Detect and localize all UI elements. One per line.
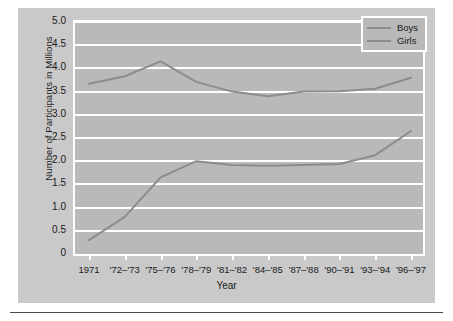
x-axis-tick-mark [268,254,270,260]
y-axis-tick-label: 4.5 [32,38,66,49]
x-axis-tick-mark [125,254,127,260]
x-axis-tick-label: '93–'94 [360,264,390,275]
x-axis-title: Year [18,280,435,291]
y-axis-tick-label: 0 [32,247,66,258]
x-axis-tick-mark [161,254,163,260]
y-axis-tick-label: 2.5 [32,131,66,142]
x-axis-tick-label: 1971 [78,264,99,275]
legend-line-swatch [367,27,391,29]
y-axis-tick-label: 2.0 [32,154,66,165]
x-axis-tick-mark [196,254,198,260]
legend-entry: Boys [367,21,418,34]
y-axis-tick-label: 0.5 [32,223,66,234]
x-axis-tick-label: '72–'73 [110,264,140,275]
y-axis-tick-label: 3.0 [32,107,66,118]
x-axis-tick-mark [89,254,91,260]
legend-label: Boys [397,23,418,33]
x-axis-tick-mark [304,254,306,260]
legend-label: Girls [397,36,417,46]
bottom-divider [10,312,443,313]
x-axis-tick-label: '96–'97 [396,264,426,275]
series-line-boys [89,61,411,96]
x-axis-tick-label: '90–'91 [324,264,354,275]
x-axis-tick-label: '81–'82 [217,264,247,275]
y-axis-tick-label: 3.5 [32,84,66,95]
y-axis-tick-label: 1.0 [32,200,66,211]
y-axis-tick-label: 5.0 [32,15,66,26]
x-axis-tick-mark [232,254,234,260]
x-axis-tick-mark [411,254,413,260]
x-axis-tick-mark [375,254,377,260]
data-lines [73,20,425,256]
x-axis-tick-labels: 1971'72–'73'75–'76'78–'79'81–'82'84–'85'… [73,256,425,278]
series-line-girls [89,131,411,240]
chart-legend: BoysGirls [361,16,427,52]
x-axis-tick-label: '75–'76 [146,264,176,275]
x-axis-tick-label: '78–'79 [181,264,211,275]
y-axis-tick-label: 4.0 [32,61,66,72]
y-axis-tick-labels: 00.51.01.52.02.53.03.54.04.55.0 [26,20,66,252]
chart-figure: Number of Participants in Millions 00.51… [18,8,435,303]
legend-entry: Girls [367,34,418,47]
x-axis-tick-label: '87–'88 [289,264,319,275]
legend-line-swatch [367,40,391,42]
x-axis-tick-label: '84–'85 [253,264,283,275]
x-axis-tick-mark [339,254,341,260]
y-axis-tick-label: 1.5 [32,177,66,188]
